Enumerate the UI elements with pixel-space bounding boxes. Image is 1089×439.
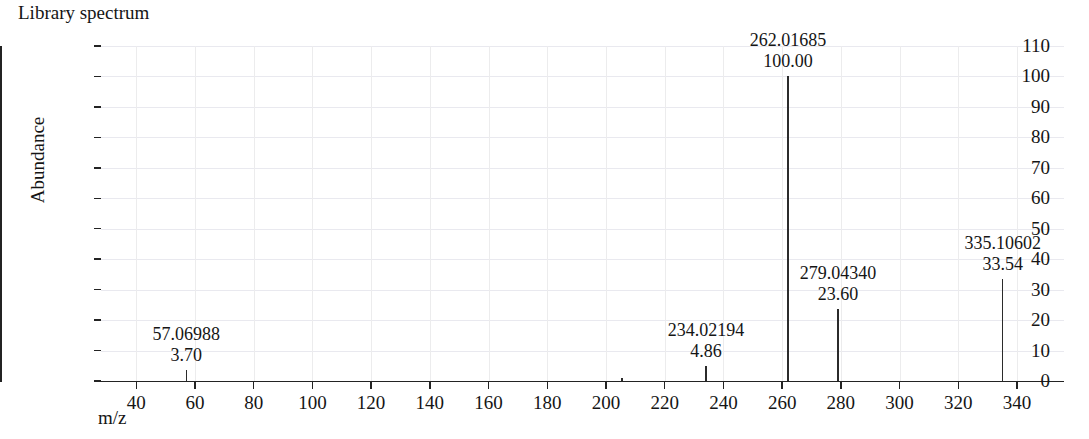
x-axis-tick [429, 381, 430, 389]
x-axis-tick-label: 200 [576, 393, 636, 412]
spectrum-peak [186, 370, 188, 381]
x-axis-tick [488, 381, 489, 389]
x-axis-tick [899, 381, 900, 389]
gridline-horizontal [101, 351, 1064, 352]
x-axis-tick-label: 140 [400, 393, 460, 412]
y-axis-tick [94, 350, 101, 351]
gridline-vertical [841, 46, 842, 381]
x-axis-tick-label: 180 [517, 393, 577, 412]
gridline-vertical [136, 46, 137, 381]
y-axis-tick-label: 60 [1010, 188, 1050, 207]
x-axis-tick [781, 381, 782, 389]
page-title: Library spectrum [18, 2, 149, 24]
peak-label: 335.1060233.54 [964, 233, 1041, 275]
y-axis-tick [94, 319, 101, 320]
peak-abundance-value: 4.86 [668, 341, 745, 362]
spectrum-peak [705, 366, 707, 381]
x-axis-tick [253, 381, 254, 389]
x-axis-tick-label: 220 [635, 393, 695, 412]
peak-abundance-value: 33.54 [964, 254, 1041, 275]
peak-abundance-value: 100.00 [750, 51, 827, 72]
y-axis-tick-label: 10 [1010, 341, 1050, 360]
x-axis-tick [958, 381, 959, 389]
y-axis-tick-label: 80 [1010, 127, 1050, 146]
gridline-vertical [430, 46, 431, 381]
peak-abundance-value: 23.60 [800, 284, 877, 305]
x-axis-tick [194, 381, 195, 389]
x-axis-tick [664, 381, 665, 389]
y-axis-tick [94, 228, 101, 229]
peak-mz-value: 335.10602 [964, 233, 1041, 254]
x-axis-tick-label: 160 [459, 393, 519, 412]
gridline-horizontal [101, 229, 1064, 230]
library-spectrum-screenshot: Library spectrum Abundance m/z 010203040… [0, 0, 1089, 439]
peak-label: 57.069883.70 [153, 324, 221, 366]
gridline-vertical [782, 46, 783, 381]
y-axis-tick [94, 137, 101, 138]
gridline-vertical [665, 46, 666, 381]
y-axis-tick [94, 76, 101, 77]
gridline-vertical [606, 46, 607, 381]
gridline-horizontal [101, 46, 1064, 47]
x-axis-tick-label: 80 [224, 393, 284, 412]
spectrum-peak [621, 378, 623, 381]
gridline-vertical [958, 46, 959, 381]
x-axis-tick [605, 381, 606, 389]
y-axis-tick [94, 198, 101, 199]
y-axis-tick-label: 70 [1010, 158, 1050, 177]
x-axis-tick [840, 381, 841, 389]
x-axis-tick-label: 340 [987, 393, 1047, 412]
x-axis-tick [1016, 381, 1017, 389]
x-axis-tick-label: 60 [165, 393, 225, 412]
x-axis-tick-label: 260 [752, 393, 812, 412]
x-axis-tick-label: 280 [811, 393, 871, 412]
y-axis-title: Abundance [28, 100, 48, 220]
x-axis-tick-label: 120 [341, 393, 401, 412]
x-axis-tick [312, 381, 313, 389]
x-axis-tick [136, 381, 137, 389]
spectrum-peak [837, 309, 839, 381]
spectrum-peak [787, 76, 789, 381]
spectrum-peak [1002, 279, 1004, 381]
y-axis-tick [94, 289, 101, 290]
y-axis-tick-label: 100 [1010, 66, 1050, 85]
x-axis-tick-label: 320 [928, 393, 988, 412]
x-axis-tick [723, 381, 724, 389]
plot-area: 0102030405060708090100110 40608010012014… [101, 46, 1064, 381]
y-axis-tick [94, 380, 101, 381]
peak-mz-value: 57.06988 [153, 324, 221, 345]
gridline-vertical [312, 46, 313, 381]
peak-label: 234.021944.86 [668, 320, 745, 362]
gridline-horizontal [101, 198, 1064, 199]
x-axis-tick-label: 240 [693, 393, 753, 412]
gridline-horizontal [101, 137, 1064, 138]
y-axis-tick-label: 20 [1010, 310, 1050, 329]
gridline-horizontal [101, 290, 1064, 291]
gridline-vertical [900, 46, 901, 381]
y-axis-tick [94, 258, 101, 259]
peak-label: 279.0434023.60 [800, 263, 877, 305]
gridline-vertical [371, 46, 372, 381]
y-axis-tick [94, 106, 101, 107]
x-axis-tick-label: 100 [282, 393, 342, 412]
gridline-horizontal [101, 76, 1064, 77]
y-axis-line [0, 46, 2, 382]
peak-mz-value: 262.01685 [750, 30, 827, 51]
gridline-horizontal [101, 168, 1064, 169]
peak-label: 262.01685100.00 [750, 30, 827, 72]
gridline-vertical [489, 46, 490, 381]
x-axis-tick [547, 381, 548, 389]
y-axis-tick [94, 45, 101, 46]
gridline-vertical [254, 46, 255, 381]
gridline-horizontal [101, 320, 1064, 321]
y-axis-tick-label: 30 [1010, 280, 1050, 299]
gridline-horizontal [101, 259, 1064, 260]
x-axis-tick-label: 300 [870, 393, 930, 412]
peak-abundance-value: 3.70 [153, 345, 221, 366]
x-axis-tick [370, 381, 371, 389]
x-axis-tick-label: 40 [106, 393, 166, 412]
y-axis-tick [94, 167, 101, 168]
y-axis-tick-label: 110 [1010, 36, 1050, 55]
gridline-vertical [547, 46, 548, 381]
peak-mz-value: 234.02194 [668, 320, 745, 341]
